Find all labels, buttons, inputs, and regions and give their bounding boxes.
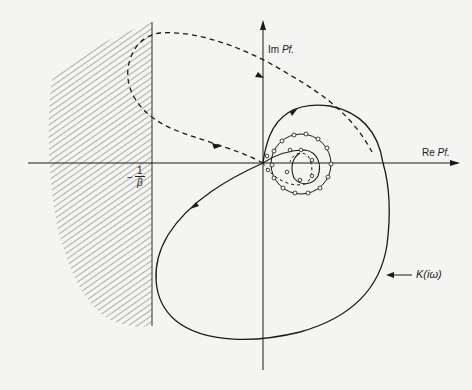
real-axis-label: Re Pf. [422,147,450,158]
critical-point-sign: − [127,172,133,183]
denominator: β [135,177,145,188]
imag-var: Pf. [282,44,294,55]
k-curve [156,105,389,339]
pointer-arrow-icon [386,272,394,278]
real-axis-arrow-icon [450,160,460,166]
imag-axis-label: Im Pf. [268,44,294,55]
imag-prefix: Im [268,44,279,55]
inner-dashed-loop [263,153,312,185]
diagram-canvas [0,0,472,390]
dashed-curve [128,33,372,163]
critical-point-label: 1 β [135,165,145,188]
real-prefix: Re [422,147,435,158]
real-var: Pf. [438,147,450,158]
k-curve-label: K(iω) [416,268,442,280]
nyquist-diagram: Im Pf. Re Pf. − 1 β K(iω) [0,0,472,390]
numerator: 1 [135,165,145,177]
direction-arrow-icon [190,202,199,209]
imag-axis-arrow-icon [260,20,266,30]
